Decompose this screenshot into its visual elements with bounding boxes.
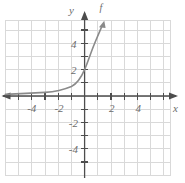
graph-canvas: -4 -2 2 4 4 2 -2 -4 y x f [0,0,185,183]
y-axis-label: y [68,4,74,16]
y-tick-label-neg4: -4 [69,143,79,155]
x-tick-label-4: 4 [135,102,141,114]
exponential-curve-path [5,26,102,95]
y-tick-label-neg2: -2 [69,117,79,129]
coordinate-plane-figure: -4 -2 2 4 4 2 -2 -4 y x f [0,0,185,183]
y-tick-label-4: 4 [71,38,77,50]
y-axis-up-arrow [81,11,88,20]
x-tick-label-neg4: -4 [27,102,37,114]
x-axis-label: x [172,102,178,114]
x-tick-label-2: 2 [109,102,115,114]
function-curve-f [5,21,105,95]
curve-label-f: f [100,2,104,13]
x-tick-label-neg2: -2 [54,102,64,114]
x-axis-right-arrow [169,92,178,99]
curve-end-arrowhead [99,21,106,28]
y-tick-label-2: 2 [71,64,77,76]
